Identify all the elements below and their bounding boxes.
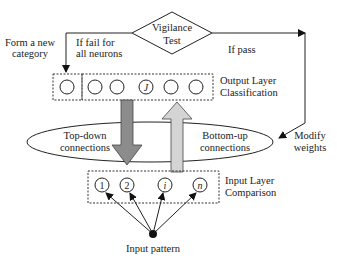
output-layer-label-2: Classification (220, 87, 278, 98)
input-pattern-arrows (106, 193, 196, 238)
input-pattern-label: Input pattern (126, 243, 181, 254)
art-diagram: Vigilance Test Form a new category If fa… (0, 0, 337, 264)
bottom-up-label-2: connections (200, 142, 250, 153)
input-layer-label-1: Input Layer (225, 175, 275, 186)
input-node-2-label: 2 (125, 180, 130, 191)
output-node (88, 80, 102, 94)
output-node (60, 80, 74, 94)
modify-weights-arrow (279, 33, 305, 138)
output-layer: J (53, 74, 213, 100)
output-node (110, 80, 124, 94)
input-node-1-label: 1 (100, 180, 105, 191)
top-down-label-2: connections (60, 142, 110, 153)
input-layer-label-2: Comparison (225, 187, 277, 198)
form-new-label-2: category (12, 48, 49, 59)
vigilance-label-2: Test (163, 35, 180, 46)
fail-label-1: If fail for (76, 37, 115, 48)
pass-label: If pass (228, 44, 256, 55)
output-node (164, 80, 178, 94)
top-down-arrow (112, 100, 142, 165)
output-node (189, 80, 203, 94)
input-node-i-label: i (164, 180, 167, 191)
modify-weights-label-1: Modify (294, 130, 326, 141)
bottom-up-label-1: Bottom-up (202, 130, 248, 141)
modify-weights-label-2: weights (294, 142, 327, 153)
top-down-label-1: Top-down (63, 130, 107, 141)
output-node-j-label: J (144, 82, 149, 93)
input-layer: 1 2 i n (88, 171, 219, 203)
fail-label-2: all neurons (76, 48, 122, 59)
input-node-n-label: n (198, 180, 203, 191)
vigilance-test-node: Vigilance Test (132, 12, 212, 54)
output-layer-label-1: Output Layer (220, 75, 277, 86)
vigilance-label-1: Vigilance (152, 22, 193, 33)
form-new-label-1: Form a new (5, 37, 56, 48)
input-pattern-dot (149, 230, 157, 238)
